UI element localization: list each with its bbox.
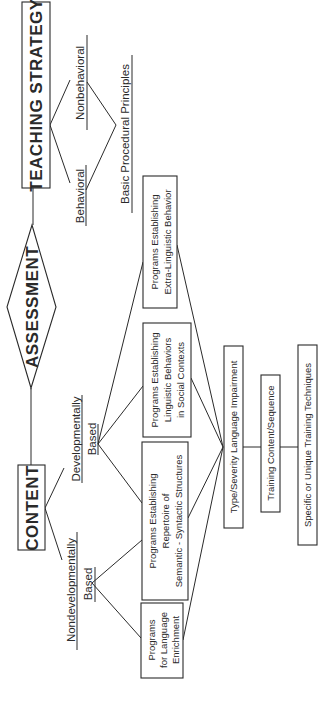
nondevelopmentally-based-label: Based	[82, 568, 94, 601]
teaching-strategy-node: TEACHING STRATEGY	[22, 0, 50, 192]
connector-dev-extralinguistic	[98, 262, 143, 444]
connector-ts-nonbehavioral	[50, 80, 70, 125]
linguistic-social-program-node: Programs Establishing Linguistic Behavio…	[143, 323, 191, 437]
connector-content-developmental	[45, 468, 64, 508]
nonbehavioral-node: Nonbehavioral	[74, 35, 87, 130]
assessment-node: ASSESSMENT	[7, 225, 56, 388]
specific-techniques-label: Specific or Unique Training Techniques	[302, 363, 313, 527]
connector-linguistic-type	[191, 378, 223, 447]
connector-semantic-type	[188, 447, 223, 518]
nondevelopmentally-label: Nondevelopmentally	[65, 538, 77, 642]
type-severity-node: Type/Severity Language Impairment	[224, 346, 243, 528]
content-node: CONTENT	[18, 465, 45, 551]
nondevelopmentally-based-node: Nondevelopmentally Based	[65, 532, 95, 650]
basic-procedural-principles-node: Basic Procedural Principles	[119, 55, 132, 213]
developmentally-based-node: Developmentally Based	[70, 395, 98, 483]
developmentally-label: Developmentally	[70, 396, 82, 481]
linguistic-social-line-1: Programs Establishing	[149, 332, 160, 427]
language-enrichment-line-3: Enrichment	[170, 616, 181, 664]
nonbehavioral-label: Nonbehavioral	[74, 46, 86, 120]
type-severity-label: Type/Severity Language Impairment	[228, 360, 239, 513]
extra-linguistic-line-2: Extra-Linguistic Behavior	[162, 189, 173, 294]
specific-techniques-node: Specific or Unique Training Techniques	[298, 345, 317, 545]
language-intervention-diagram: TEACHING STRATEGY Nonbehavioral Behavior…	[0, 0, 326, 703]
connector-dev-semantic	[98, 444, 142, 503]
connector-content-nondevelopmental	[45, 508, 62, 560]
semantic-syntactic-line-2: Repertoire of	[160, 493, 171, 548]
connector-enrichment-type	[183, 447, 223, 640]
training-content-node: Training Content/Sequence	[261, 375, 280, 512]
behavioral-label: Behavioral	[74, 169, 86, 223]
assessment-label: ASSESSMENT	[23, 246, 42, 368]
teaching-strategy-label: TEACHING STRATEGY	[27, 0, 46, 192]
connector-nonbehavioral-principles	[87, 82, 116, 125]
connector-ts-behavioral	[50, 125, 70, 183]
semantic-syntactic-line-3: Semantic - Syntactic Structures	[173, 454, 184, 587]
connector-nondev-semantic	[92, 540, 142, 583]
basic-procedural-principles-label: Basic Procedural Principles	[119, 64, 131, 204]
semantic-syntactic-program-node: Programs Establishing Repertoire of Sema…	[142, 442, 188, 600]
semantic-syntactic-line-1: Programs Establishing	[147, 473, 158, 568]
connector-nondev-enrichment	[92, 583, 141, 638]
extra-linguistic-program-node: Programs Establishing Extra-Linguistic B…	[143, 176, 177, 308]
linguistic-social-line-3: in Social Contexts	[175, 342, 186, 418]
language-enrichment-line-1: Programs	[146, 619, 157, 660]
language-enrichment-line-2: for Language	[158, 612, 169, 668]
connector-behavioral-principles	[86, 125, 116, 190]
behavioral-node: Behavioral	[74, 165, 86, 226]
developmentally-based-label: Based	[86, 423, 98, 456]
language-enrichment-program-node: Programs for Language Enrichment	[141, 603, 183, 678]
content-label: CONTENT	[23, 465, 42, 551]
linguistic-social-line-2: Linguistic Behaviors	[162, 338, 173, 423]
extra-linguistic-line-1: Programs Establishing	[149, 194, 160, 289]
training-content-label: Training Content/Sequence	[265, 385, 276, 500]
